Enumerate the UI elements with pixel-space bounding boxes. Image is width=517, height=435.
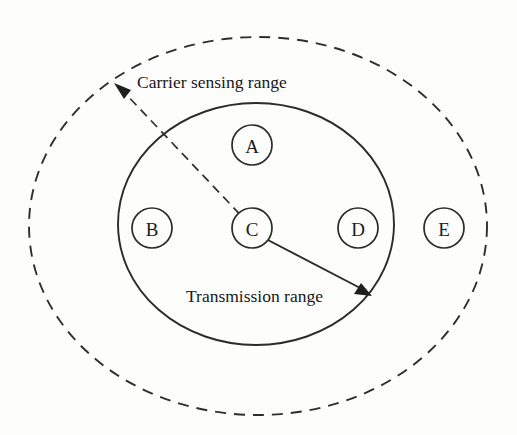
carrier-sensing-range-label: Carrier sensing range (137, 72, 287, 92)
carrier-sensing-arrow-icon (114, 83, 131, 99)
node-a: A (232, 125, 272, 165)
node-e: E (424, 208, 464, 248)
node-d-label: D (351, 219, 365, 240)
node-c-label: C (246, 219, 259, 240)
node-a-label: A (245, 136, 259, 157)
transmission-range-label: Transmission range (186, 286, 323, 306)
node-c: C (232, 208, 272, 248)
diagram-canvas: A B C D E Carrier sensing range Transmis… (0, 0, 517, 435)
node-d: D (338, 208, 378, 248)
node-b-label: B (146, 219, 159, 240)
node-e-label: E (438, 219, 450, 240)
node-b: B (132, 208, 172, 248)
diagram-svg: A B C D E Carrier sensing range Transmis… (0, 0, 517, 435)
transmission-arrow-icon (354, 283, 372, 296)
